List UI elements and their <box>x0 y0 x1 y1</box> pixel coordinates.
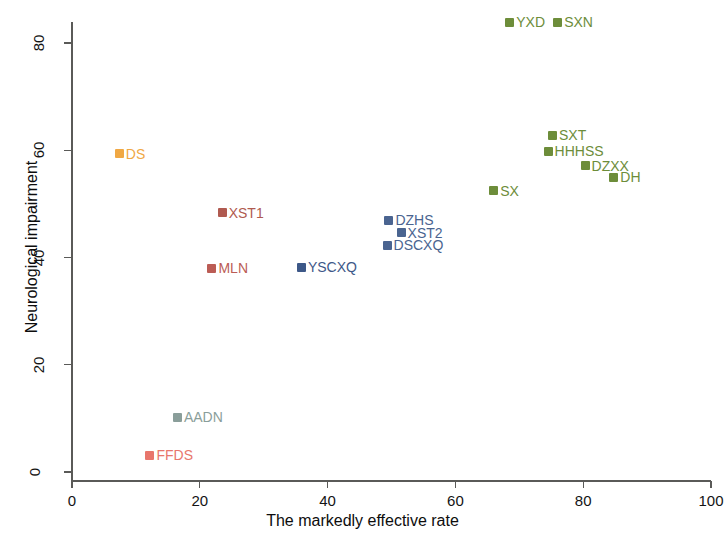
data-point-yscxq: YSCXQ <box>297 260 357 274</box>
y-tick-20 <box>64 364 71 365</box>
point-marker-ds <box>115 149 124 158</box>
point-marker-xst2 <box>397 228 406 237</box>
data-point-xst1: XST1 <box>218 206 264 220</box>
point-marker-aadn <box>173 413 182 422</box>
point-marker-dzhs <box>384 216 393 225</box>
x-tick-60 <box>455 481 456 488</box>
x-axis-line <box>72 480 711 482</box>
x-tick-40 <box>327 481 328 488</box>
point-label-sxt: SXT <box>559 128 586 142</box>
data-point-sxn: SXN <box>553 15 593 29</box>
x-tick-label-60: 60 <box>447 492 464 509</box>
y-tick-40 <box>64 257 71 258</box>
point-marker-sxn <box>553 18 562 27</box>
point-label-dh: DH <box>620 170 640 184</box>
point-marker-dh <box>609 173 618 182</box>
data-point-yxd: YXD <box>505 15 545 29</box>
point-marker-dzxx <box>581 161 590 170</box>
point-marker-sxt <box>548 131 557 140</box>
point-label-xst1: XST1 <box>229 206 264 220</box>
point-marker-xst1 <box>218 208 227 217</box>
point-label-yxd: YXD <box>516 15 545 29</box>
data-point-ffds: FFDS <box>145 448 193 462</box>
y-axis-line <box>71 22 73 481</box>
point-label-sx: SX <box>500 184 519 198</box>
x-axis-title: The markedly effective rate <box>0 512 725 530</box>
x-tick-20 <box>199 481 200 488</box>
point-label-mln: MLN <box>218 261 248 275</box>
point-label-yscxq: YSCXQ <box>308 260 357 274</box>
x-tick-label-40: 40 <box>319 492 336 509</box>
x-tick-100 <box>710 481 711 488</box>
point-marker-mln <box>207 264 216 273</box>
point-label-ffds: FFDS <box>156 448 193 462</box>
x-tick-0 <box>71 481 72 488</box>
x-tick-label-0: 0 <box>68 492 76 509</box>
data-point-mln: MLN <box>207 261 248 275</box>
y-tick-80 <box>64 42 71 43</box>
point-marker-yscxq <box>297 263 306 272</box>
point-label-dscxq: DSCXQ <box>394 238 444 252</box>
point-marker-ffds <box>145 451 154 460</box>
data-point-hhhss: HHHSS <box>544 144 604 158</box>
point-label-hhhss: HHHSS <box>555 144 604 158</box>
x-tick-label-100: 100 <box>698 492 723 509</box>
y-tick-60 <box>64 150 71 151</box>
point-marker-yxd <box>505 18 514 27</box>
data-point-dh: DH <box>609 170 640 184</box>
data-point-sx: SX <box>489 184 519 198</box>
point-marker-sx <box>489 186 498 195</box>
y-tick-label-80: 80 <box>30 35 47 52</box>
data-point-sxt: SXT <box>548 128 586 142</box>
x-tick-label-20: 20 <box>191 492 208 509</box>
y-tick-0 <box>64 471 71 472</box>
y-axis-title: Neurological impairment <box>23 117 41 377</box>
x-tick-80 <box>583 481 584 488</box>
point-label-sxn: SXN <box>564 15 593 29</box>
point-label-ds: DS <box>126 147 145 161</box>
y-tick-label-0: 0 <box>26 468 43 476</box>
data-point-dscxq: DSCXQ <box>383 238 444 252</box>
point-marker-dscxq <box>383 241 392 250</box>
data-point-aadn: AADN <box>173 410 223 424</box>
data-point-ds: DS <box>115 147 145 161</box>
x-tick-label-80: 80 <box>575 492 592 509</box>
point-label-aadn: AADN <box>184 410 223 424</box>
point-marker-hhhss <box>544 147 553 156</box>
scatter-plot-figure: 020406080100 020406080 DSXST1MLNYSCXQAAD… <box>0 0 725 542</box>
